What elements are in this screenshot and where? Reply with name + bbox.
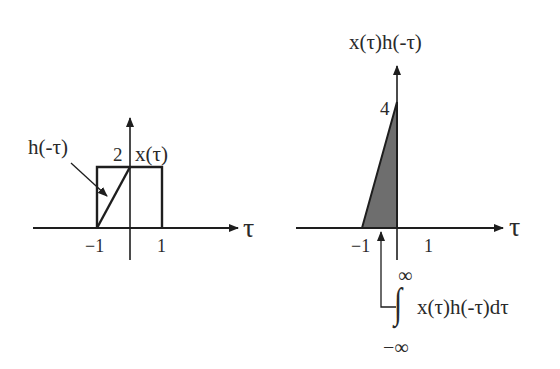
right-tick-neg-one: −1 [351,237,370,255]
right-tau-axis-label: τ [509,213,520,241]
left-tick-one: 1 [157,237,166,255]
left-tick-neg-one: −1 [85,237,104,255]
left-peak-value: 2 [113,145,123,164]
integral-expression: x(τ)h(-τ)dτ [417,297,509,318]
integral-lower-limit: −∞ [383,337,409,357]
product-triangle-fill [362,102,397,228]
x-tau-label: x(τ) [135,144,168,165]
right-tick-one: 1 [424,237,433,255]
h-neg-tau-label: h(-τ) [28,137,68,158]
integral-sign: ∫ [394,282,402,324]
product-title: x(τ)h(-τ) [349,32,422,53]
left-tau-axis-label: τ [243,214,254,242]
right-peak-value: 4 [380,99,390,118]
h-neg-tau-ramp [97,167,130,228]
